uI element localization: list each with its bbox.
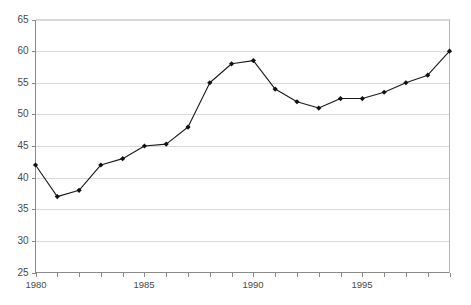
data-point-marker (403, 80, 408, 85)
x-tick-label: 1995 (351, 279, 372, 290)
y-axis-ticks (32, 21, 36, 274)
data-point-markers (33, 49, 452, 200)
y-tick-label: 50 (17, 108, 29, 119)
x-tick-label: 1985 (133, 279, 154, 290)
chart-canvas: 253035404550556065 1980198519901995 (0, 0, 471, 305)
x-tick-label: 1980 (25, 279, 46, 290)
data-point-marker (382, 90, 387, 95)
data-series (36, 51, 450, 196)
line-chart: 253035404550556065 1980198519901995 (0, 0, 471, 305)
y-tick-label: 25 (17, 267, 29, 278)
data-point-marker (120, 156, 125, 161)
y-tick-label: 40 (17, 172, 29, 183)
gridlines (36, 21, 450, 242)
x-axis-tick-labels: 1980198519901995 (25, 279, 372, 290)
series-line-1 (36, 51, 450, 196)
data-point-marker (294, 99, 299, 104)
x-axis-ticks (37, 273, 451, 277)
data-point-marker (316, 105, 321, 110)
y-tick-label: 35 (17, 203, 29, 214)
y-tick-label: 45 (17, 140, 29, 151)
y-tick-label: 55 (17, 77, 29, 88)
x-tick-label: 1990 (242, 279, 263, 290)
data-point-marker (142, 143, 147, 148)
y-tick-label: 65 (17, 14, 29, 25)
y-tick-label: 60 (17, 45, 29, 56)
data-point-marker (360, 96, 365, 101)
data-point-marker (338, 96, 343, 101)
y-axis-tick-labels: 253035404550556065 (17, 14, 29, 278)
y-tick-label: 30 (17, 235, 29, 246)
